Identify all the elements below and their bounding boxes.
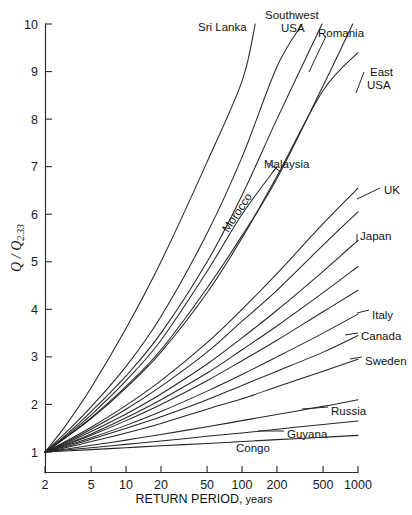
x-tick-label-100: 100 — [232, 478, 253, 492]
x-axis-title-suffix: years — [242, 493, 272, 505]
x-tick-label-200: 200 — [267, 478, 288, 492]
series-label-japan: Japan — [360, 230, 391, 242]
series-label-sweden: Sweden — [365, 355, 407, 367]
series-label-italy: Italy — [372, 309, 393, 321]
y-axis-title-subscript: 2.33 — [16, 224, 26, 241]
series-label-russia: Russia — [331, 405, 367, 417]
flood-frequency-chart: 251020501002005001000 12345678910 Sri La… — [0, 0, 412, 515]
y-axis-title-numerator: Q — [9, 262, 24, 272]
series-label-southwest: Southwest — [265, 9, 320, 21]
x-tick-label-1000: 1000 — [344, 478, 372, 492]
x-tick-label-5: 5 — [88, 478, 95, 492]
y-tick-label-4: 4 — [31, 303, 38, 317]
series-label-canada: Canada — [361, 330, 402, 342]
y-axis-title-divider: / — [9, 251, 24, 262]
series-label-usa: USA — [367, 79, 391, 91]
series-label-guyana: Guyana — [287, 428, 328, 440]
x-tick-label-500: 500 — [313, 478, 334, 492]
y-tick-label-9: 9 — [31, 65, 38, 79]
x-tick-label-50: 50 — [200, 478, 214, 492]
x-tick-label-20: 20 — [154, 478, 168, 492]
y-tick-label-2: 2 — [31, 398, 38, 412]
x-axis-title: RETURN PERIOD, years — [136, 492, 273, 506]
x-axis-title-main: RETURN PERIOD, — [136, 492, 243, 506]
y-tick-label-7: 7 — [31, 160, 38, 174]
y-tick-label-10: 10 — [24, 18, 38, 32]
series-label-romania: Romania — [318, 27, 365, 39]
x-axis-title-text: RETURN PERIOD, years — [136, 492, 273, 506]
series-label-congo: Congo — [236, 442, 270, 454]
x-tick-label-2: 2 — [42, 478, 49, 492]
y-axis-title-denominator: Q — [9, 241, 24, 251]
series-label-sri-lanka: Sri Lanka — [198, 21, 247, 33]
x-tick-label-10: 10 — [119, 478, 133, 492]
y-tick-label-1: 1 — [31, 446, 38, 460]
x-tick-labels: 251020501002005001000 — [42, 478, 372, 492]
series-label-uk: UK — [384, 184, 400, 196]
series-label-malaysia: Malaysia — [264, 158, 310, 170]
y-tick-label-3: 3 — [31, 350, 38, 364]
y-tick-label-6: 6 — [31, 208, 38, 222]
chart-background — [0, 0, 412, 515]
y-tick-label-8: 8 — [31, 113, 38, 127]
series-label-east: East — [370, 66, 394, 78]
y-tick-label-5: 5 — [31, 255, 38, 269]
chart-root: 251020501002005001000 12345678910 Sri La… — [0, 0, 412, 515]
series-label-usa: USA — [281, 22, 305, 34]
